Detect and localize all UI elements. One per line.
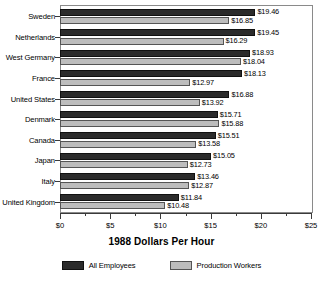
bar-value-label: $11.84: [181, 194, 202, 201]
bar-value-label: $10.48: [167, 202, 189, 209]
bar-with-value: $13.46: [60, 173, 219, 180]
bar-with-value: $18.13: [60, 70, 266, 77]
bar-with-value: $19.46: [60, 9, 279, 16]
bar-group-row: Denmark$15.71$15.88: [60, 109, 312, 130]
bar: [60, 38, 224, 45]
bar-with-value: $10.48: [60, 202, 189, 209]
bar-value-label: $12.73: [190, 161, 212, 168]
bar-with-value: $16.85: [60, 17, 253, 24]
bar: [60, 141, 196, 148]
bar-with-value: $13.58: [60, 141, 220, 148]
bar-value-label: $18.04: [243, 58, 265, 65]
bar-with-value: $12.87: [60, 182, 213, 189]
bar: [60, 50, 250, 57]
category-label: Netherlands: [15, 32, 55, 41]
bar-group-row: Japan$15.05$12.73: [60, 150, 312, 171]
bar-group-row: United Kingdom$11.84$10.48: [60, 191, 312, 212]
bar-with-value: $15.05: [60, 153, 235, 160]
bar: [60, 182, 189, 189]
x-axis-minor-tick: [85, 213, 86, 216]
bar: [60, 58, 241, 65]
bar-value-label: $13.58: [198, 140, 220, 147]
x-axis-tick-label: $20: [254, 221, 267, 230]
x-axis-tick-label: $15: [204, 221, 217, 230]
x-axis-minor-tick: [135, 213, 136, 216]
bar-group-row: Canada$15.51$13.58: [60, 130, 312, 151]
legend-item: All Employees: [62, 261, 136, 270]
x-axis-title: 1988 Dollars Per Hour: [0, 236, 323, 247]
bar: [60, 91, 229, 98]
category-label: United States: [11, 94, 55, 103]
x-axis-tick: [311, 213, 312, 219]
bar-value-label: $18.13: [244, 70, 266, 77]
x-axis-tick: [261, 213, 262, 219]
bar: [60, 79, 190, 86]
legend-swatch: [62, 261, 84, 270]
bar-with-value: $16.29: [60, 38, 247, 45]
bar-value-label: $19.46: [257, 8, 279, 15]
bar: [60, 132, 216, 139]
bar-value-label: $15.51: [218, 132, 240, 139]
x-axis-tick: [160, 213, 161, 219]
x-axis-tick: [211, 213, 212, 219]
bar: [60, 70, 242, 77]
bar-with-value: $15.71: [60, 111, 241, 118]
bar-value-label: $15.88: [221, 120, 243, 127]
x-axis-tick-label: $0: [56, 221, 64, 230]
bar: [60, 111, 218, 118]
bar-value-label: $15.05: [213, 152, 235, 159]
x-axis-tick: [110, 213, 111, 219]
x-axis-tick: [60, 213, 61, 219]
bar-group-row: France$18.13$12.97: [60, 68, 312, 89]
bar-with-value: $18.04: [60, 58, 265, 65]
bar-value-label: $12.97: [192, 79, 214, 86]
bar: [60, 9, 255, 16]
bar-value-label: $18.93: [252, 49, 274, 56]
category-label: United Kingdom: [2, 197, 55, 206]
bar-with-value: $15.51: [60, 132, 239, 139]
bar-value-label: $13.46: [197, 173, 219, 180]
bar: [60, 194, 179, 201]
bar: [60, 17, 229, 24]
bar-group-row: West Germany$18.93$18.04: [60, 47, 312, 68]
bar-value-label: $16.29: [226, 37, 248, 44]
category-label: France: [32, 74, 55, 83]
bar-value-label: $16.88: [231, 91, 253, 98]
bar-value-label: $16.85: [231, 17, 253, 24]
bar-with-value: $19.45: [60, 29, 279, 36]
category-label: Japan: [35, 156, 55, 165]
bar-with-value: $11.84: [60, 194, 202, 201]
bar-value-label: $15.71: [220, 111, 242, 118]
legend-label: All Employees: [89, 261, 136, 270]
bar: [60, 99, 200, 106]
bar-value-label: $19.45: [257, 29, 279, 36]
bar-group-row: Sweden$19.46$16.85: [60, 6, 312, 27]
bar-value-label: $12.87: [191, 182, 213, 189]
legend-item: Production Workers: [170, 261, 262, 270]
bar: [60, 161, 188, 168]
bar-with-value: $13.92: [60, 99, 223, 106]
bar: [60, 153, 211, 160]
chart-legend: All EmployeesProduction Workers: [0, 261, 323, 270]
bar-with-value: $16.88: [60, 91, 253, 98]
x-axis-tick-label: $25: [305, 221, 318, 230]
category-label: Sweden: [28, 12, 55, 21]
bar-with-value: $18.93: [60, 50, 274, 57]
bar-value-label: $13.92: [202, 99, 224, 106]
legend-swatch: [170, 261, 192, 270]
bar-group-row: Netherlands$19.45$16.29: [60, 27, 312, 48]
bar: [60, 120, 219, 127]
bar: [60, 173, 195, 180]
bar: [60, 29, 255, 36]
bar-with-value: $12.73: [60, 161, 212, 168]
bar-with-value: $15.88: [60, 120, 243, 127]
bar: [60, 202, 165, 209]
category-label: Italy: [42, 177, 55, 186]
bar-rows: Sweden$19.46$16.85Netherlands$19.45$16.2…: [60, 6, 312, 212]
category-label: West Germany: [6, 53, 55, 62]
x-axis-minor-tick: [286, 213, 287, 216]
bar-group-row: Italy$13.46$12.87: [60, 171, 312, 192]
x-axis-tick-label: $5: [106, 221, 114, 230]
x-axis-minor-tick: [186, 213, 187, 216]
x-axis-tick-label: $10: [154, 221, 167, 230]
